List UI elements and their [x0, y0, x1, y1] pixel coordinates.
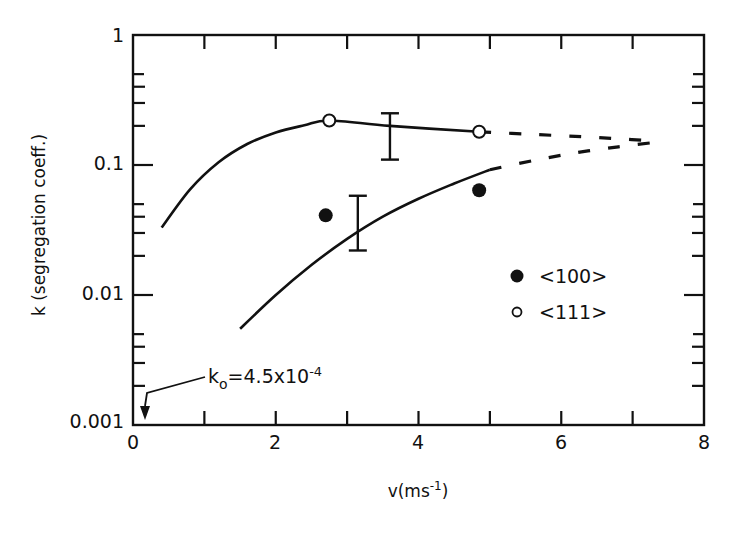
legend-label-111: <111>: [539, 301, 607, 323]
open-circle-marker: [473, 126, 485, 138]
x-tick-label-0: 0: [127, 431, 139, 453]
y-tick-label-1: 1: [112, 24, 124, 46]
legend-open-circle-icon: [513, 308, 522, 317]
legend-filled-circle-icon: [511, 270, 524, 283]
filled-circle-marker: [472, 183, 486, 197]
filled-circle-marker: [319, 208, 333, 222]
x-tick-label-6: 6: [555, 431, 567, 453]
y-tick-label-0.1: 0.1: [94, 152, 124, 174]
chart: 1 0.1 0.01 0.001 0 2 4 6 8 v(ms-1) k (se…: [0, 0, 735, 533]
open-circle-marker: [323, 114, 335, 126]
x-tick-label-4: 4: [412, 431, 424, 453]
legend-label-100: <100>: [539, 265, 607, 287]
y-tick-label-0.001: 0.001: [70, 410, 124, 432]
y-axis-title: k (segregation coeff.): [29, 134, 49, 316]
background: [0, 0, 735, 533]
x-tick-label-2: 2: [269, 431, 281, 453]
x-tick-label-8: 8: [698, 431, 710, 453]
y-tick-label-0.01: 0.01: [82, 282, 124, 304]
